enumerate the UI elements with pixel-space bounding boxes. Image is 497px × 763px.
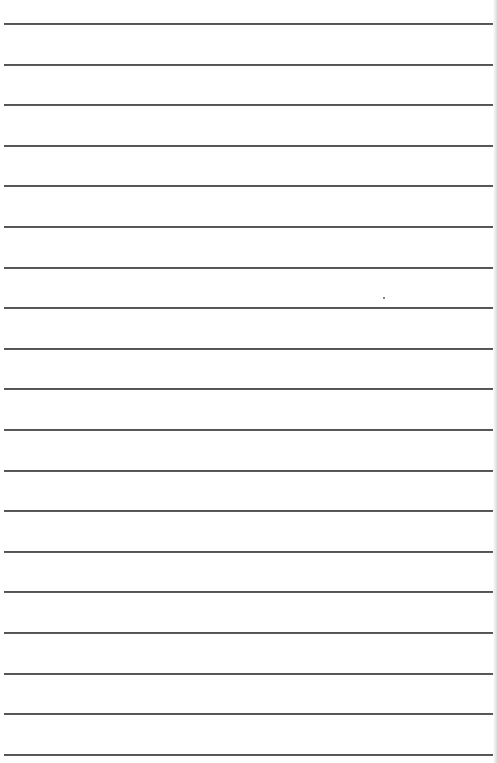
ruled-line [4, 754, 494, 756]
ruled-line [4, 470, 494, 472]
ruled-line [4, 64, 494, 66]
ruled-line [4, 267, 494, 269]
ruled-line [4, 348, 494, 350]
ruled-line [4, 145, 494, 147]
ruled-line [4, 388, 494, 390]
ruled-line [4, 591, 494, 593]
ruled-line [4, 23, 494, 25]
ruled-line [4, 104, 494, 106]
ruled-line [4, 429, 494, 431]
ruled-line [4, 185, 494, 187]
ruled-line [4, 673, 494, 675]
page-edge-shadow [493, 0, 497, 763]
ruled-line [4, 307, 494, 309]
lined-paper-page [0, 0, 497, 763]
ruled-line [4, 632, 494, 634]
ruled-line [4, 226, 494, 228]
ruled-line [4, 551, 494, 553]
ruled-line [4, 510, 494, 512]
ink-speck [383, 297, 385, 299]
ruled-line [4, 713, 494, 715]
